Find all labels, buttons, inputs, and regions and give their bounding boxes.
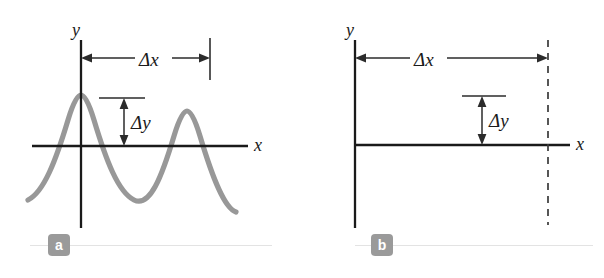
delta-y-arrowhead-bottom: [120, 135, 129, 146]
y-axis-label: y: [344, 20, 354, 40]
delta-y-label: Δy: [488, 110, 509, 131]
panel-b: y x Δx Δy: [302, 0, 604, 278]
delta-x-arrowhead-right: [537, 54, 548, 63]
delta-x-label: Δx: [138, 49, 159, 70]
delta-y-label: Δy: [130, 112, 151, 133]
panel-a: y x Δx Δy: [0, 0, 302, 278]
panel-a-plot: y x Δx Δy: [0, 0, 302, 278]
delta-x-arrowhead-right: [199, 54, 210, 63]
panel-b-plot: y x Δx Δy: [302, 0, 604, 278]
panel-label-b: b: [371, 234, 393, 256]
delta-x-arrowhead-left: [355, 54, 366, 63]
x-axis-label: x: [253, 135, 262, 155]
delta-x-label: Δx: [413, 49, 434, 70]
y-axis-label: y: [70, 20, 80, 40]
wave-figure: y x Δx Δy y x: [0, 0, 604, 278]
delta-y-arrowhead-top: [478, 96, 487, 107]
delta-y-arrowhead-bottom: [478, 134, 487, 145]
delta-x-arrowhead-left: [81, 54, 92, 63]
x-axis-label: x: [575, 134, 584, 154]
delta-y-arrowhead-top: [120, 98, 129, 109]
panel-label-a: a: [48, 234, 70, 256]
